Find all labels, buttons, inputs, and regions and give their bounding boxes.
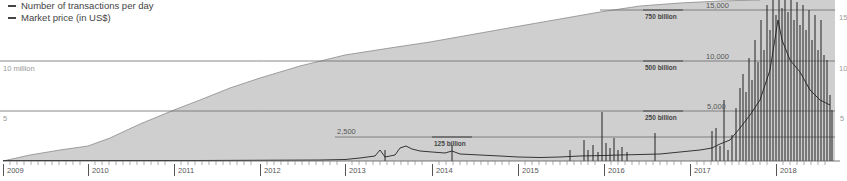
year-label-2011: 2011 bbox=[174, 164, 194, 176]
right-axis-label-10: 10 bbox=[839, 64, 847, 73]
legend-item-transactions: Number of transactions per day bbox=[8, 0, 154, 12]
billion-label-250: 250 billion bbox=[645, 114, 677, 121]
left-axis-label-5: 5 bbox=[3, 114, 7, 123]
chart-canvas bbox=[0, 0, 847, 181]
year-label-2017: 2017 bbox=[690, 164, 711, 176]
billion-label-750: 750 billion bbox=[645, 13, 677, 20]
price-label-2500: 2,500 bbox=[337, 127, 356, 136]
legend: Number of transactions per day Market pr… bbox=[8, 0, 154, 24]
legend-label: Number of transactions per day bbox=[21, 0, 154, 12]
year-label-2015: 2015 bbox=[518, 164, 539, 176]
year-label-2013: 2013 bbox=[345, 164, 366, 176]
billion-label-500: 500 billion bbox=[645, 64, 677, 71]
legend-dash-icon bbox=[8, 17, 16, 18]
year-label-2014: 2014 bbox=[432, 164, 453, 176]
right-axis-label-15: 15 bbox=[839, 13, 847, 22]
legend-label: Market price (in US$) bbox=[21, 12, 111, 24]
price-label-5000: 5,000 bbox=[707, 102, 726, 111]
bitcoin-chart: Number of transactions per day Market pr… bbox=[0, 0, 847, 181]
legend-dash-icon bbox=[8, 5, 16, 6]
year-label-2016: 2016 bbox=[604, 164, 625, 176]
year-label-2018: 2018 bbox=[776, 164, 797, 176]
legend-item-market-price: Market price (in US$) bbox=[8, 12, 154, 24]
price-label-15000: 15,000 bbox=[706, 1, 729, 10]
year-label-2012: 2012 bbox=[260, 164, 281, 176]
year-label-2009: 2009 bbox=[3, 164, 24, 176]
year-label-2010: 2010 bbox=[88, 164, 109, 176]
left-axis-label-10-million: 10 million bbox=[3, 64, 35, 73]
price-label-10000: 10,000 bbox=[706, 52, 729, 61]
right-axis-label-5: 5 bbox=[840, 114, 844, 123]
billion-label-125: 125 billion bbox=[434, 140, 466, 147]
